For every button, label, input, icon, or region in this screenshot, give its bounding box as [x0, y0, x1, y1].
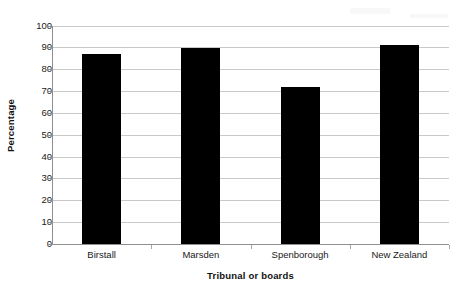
bar-chart-figure: Percentage 1009080706050403020100 Tribun… [0, 0, 465, 293]
bar-spenborough [281, 87, 320, 244]
plot-area [52, 26, 449, 245]
bar-birstall [82, 54, 121, 244]
y-tick-label: 10 [10, 217, 52, 227]
x-tick-mark [449, 245, 450, 249]
x-axis-title: Tribunal or boards [52, 270, 449, 281]
scan-artifact [410, 14, 448, 18]
y-tick-label: 80 [10, 64, 52, 74]
y-tick-label: 100 [10, 21, 52, 31]
y-tick-label: 90 [10, 42, 52, 52]
y-tick-label: 70 [10, 86, 52, 96]
y-tick-label: 0 [10, 239, 52, 249]
y-tick-label: 50 [10, 130, 52, 140]
y-tick-label: 30 [10, 173, 52, 183]
y-axis-line [52, 26, 53, 245]
bar-new-zealand [380, 45, 419, 244]
y-tick-label: 40 [10, 152, 52, 162]
y-tick-label: 60 [10, 108, 52, 118]
y-tick-label: 20 [10, 195, 52, 205]
x-tick-label: New Zealand [339, 249, 459, 261]
gridline [52, 26, 449, 27]
scan-artifact [350, 8, 390, 14]
bar-marsden [181, 48, 220, 244]
